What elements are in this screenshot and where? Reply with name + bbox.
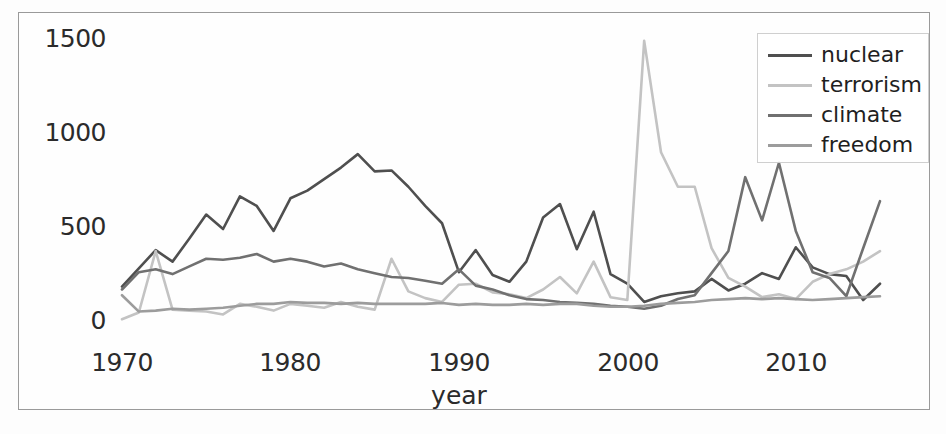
legend-label-nuclear: nuclear	[821, 44, 903, 66]
legend-label-climate: climate	[821, 104, 902, 126]
legend-swatch-freedom	[768, 144, 812, 147]
legend-item-terrorism: terrorism	[758, 70, 928, 100]
y-tick-0: 0	[28, 306, 106, 335]
legend-label-freedom: freedom	[821, 134, 913, 156]
x-tick-1970: 1970	[72, 348, 172, 377]
y-tick-500: 500	[28, 212, 106, 241]
chart-legend: nuclear terrorism climate freedom	[757, 33, 929, 163]
legend-swatch-climate	[768, 114, 812, 117]
x-tick-1990: 1990	[409, 348, 509, 377]
legend-item-freedom: freedom	[758, 130, 928, 160]
x-tick-1980: 1980	[240, 348, 340, 377]
legend-item-climate: climate	[758, 100, 928, 130]
legend-label-terrorism: terrorism	[821, 74, 922, 96]
legend-swatch-terrorism	[768, 84, 812, 87]
series-line-freedom	[122, 295, 880, 311]
x-axis-title: year	[409, 381, 509, 410]
y-tick-1500: 1500	[28, 24, 106, 53]
legend-item-nuclear: nuclear	[758, 40, 928, 70]
x-tick-2000: 2000	[578, 348, 678, 377]
x-tick-2010: 2010	[746, 348, 846, 377]
series-line-climate	[122, 163, 880, 309]
chart-figure: 1500 1000 500 0 1970 1980 1990 2000 2010…	[0, 0, 946, 434]
legend-swatch-nuclear	[768, 54, 812, 57]
series-line-nuclear	[122, 154, 880, 302]
y-tick-1000: 1000	[28, 118, 106, 147]
